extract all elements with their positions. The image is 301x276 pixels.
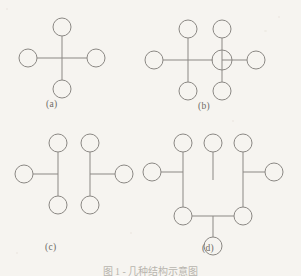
node-b-left: [145, 51, 163, 69]
panel-label-c: (c): [45, 242, 56, 252]
node-b-center-top: [213, 20, 231, 38]
node-d-low-right: [234, 207, 252, 225]
node-c-r-bottom: [81, 196, 99, 214]
panel-label-b: (b): [198, 101, 210, 111]
panel-label-d: (d): [202, 243, 214, 253]
panel-label-a: (a): [46, 99, 57, 109]
node-a-bottom: [53, 80, 71, 98]
node-d-top-right: [234, 134, 252, 152]
scan-speck: [130, 232, 132, 234]
node-c-l-bottom: [49, 196, 67, 214]
figure-caption: 图 1 - 几种结构示意图: [0, 265, 301, 276]
structure-diagram-svg: [0, 0, 301, 276]
node-b-right: [247, 51, 265, 69]
node-a-right: [87, 49, 105, 67]
node-c-l-top: [49, 134, 67, 152]
scan-speck: [278, 16, 280, 18]
node-b-left-top: [179, 20, 197, 38]
scan-speck: [16, 252, 18, 254]
figure-page: (a) (b) (c) (d) 图 1 - 几种结构示意图: [0, 0, 301, 276]
node-a-top: [53, 18, 71, 36]
node-b-center-bot: [213, 82, 231, 100]
node-d-top-mid: [204, 134, 222, 152]
panel-c-diagram: [15, 134, 133, 214]
node-c-l-left: [15, 165, 33, 183]
node-b-left-bottom: [179, 82, 197, 100]
panel-a-diagram: [19, 18, 105, 98]
scan-speck: [264, 30, 267, 32]
node-c-r-top: [81, 134, 99, 152]
node-d-low-left: [174, 207, 192, 225]
scan-speck: [6, 8, 8, 10]
node-a-left: [19, 49, 37, 67]
scan-speck: [232, 120, 234, 122]
node-c-r-right: [115, 165, 133, 183]
panel-d-diagram: [143, 134, 283, 255]
node-d-top-left: [174, 134, 192, 152]
node-d-far-left: [143, 163, 161, 181]
panel-b-diagram: [145, 20, 265, 100]
node-d-far-right: [265, 163, 283, 181]
